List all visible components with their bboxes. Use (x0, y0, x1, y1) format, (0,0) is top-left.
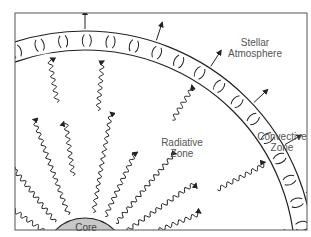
radiative-zone-label-line2: Zone (152, 148, 212, 159)
convective-zone-label-line1: Convective (252, 131, 311, 142)
stellar-structure-diagram (0, 0, 311, 237)
convective-zone-label-line2: Zone (252, 142, 311, 153)
radiative-zone-label-line1: Radiative (152, 137, 212, 148)
stellar-atmosphere-label: Stellar Atmosphere (210, 37, 300, 59)
stellar-atmosphere-label-line2: Atmosphere (210, 48, 300, 59)
convective-zone-label: Convective Zone (252, 131, 311, 153)
core-label: Core (68, 222, 104, 233)
radiative-zone-label: Radiative Zone (152, 137, 212, 159)
radiative-photon-arrows (0, 58, 288, 237)
stellar-atmosphere-label-line1: Stellar (210, 37, 300, 48)
